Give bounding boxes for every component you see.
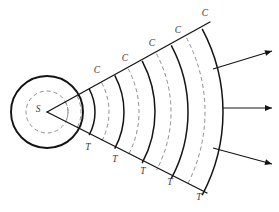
- crest-label-4: C: [175, 25, 182, 35]
- propagation-arrow-middle-head: [265, 105, 272, 111]
- wavefront-crest-2: [115, 76, 124, 148]
- wavefront-crest-4: [172, 46, 189, 178]
- trough-label-1: T: [85, 142, 91, 152]
- propagation-arrow-upper-head: [264, 50, 272, 56]
- crest-label-3: C: [149, 38, 156, 48]
- trough-label-group: TTTTT: [85, 142, 202, 202]
- trough-label-4: T: [167, 177, 173, 187]
- crest-label-2: C: [122, 53, 129, 63]
- wavefront-trough-5: [187, 38, 205, 186]
- wavefront-trough-4: [156, 54, 171, 170]
- sector-lower-ray: [47, 112, 207, 193]
- propagation-arrow-lower-shaft: [213, 148, 272, 164]
- propagation-arrow-lower: [213, 148, 272, 165]
- wavefront-diagram: S CCCCC TTTTT: [0, 0, 279, 212]
- source-label: S: [36, 104, 41, 114]
- sector-ray-group: [47, 22, 210, 193]
- crest-label-1: C: [94, 65, 101, 75]
- wavefront-inner-dashed: [66, 102, 68, 122]
- propagation-arrow-upper-shaft: [213, 51, 272, 69]
- wavefront-trough-2: [102, 83, 109, 141]
- wavefront-crest-1: [89, 89, 95, 134]
- wavefront-diagram-canvas: S CCCCC TTTTT: [0, 0, 279, 212]
- trough-label-3: T: [140, 166, 146, 176]
- trough-label-5: T: [196, 192, 202, 202]
- propagation-arrow-lower-head: [264, 159, 272, 165]
- crest-label-group: CCCCC: [94, 8, 209, 75]
- propagation-arrow-middle: [223, 105, 272, 111]
- wavefront-crest-3: [142, 61, 155, 162]
- propagation-arrow-upper: [213, 50, 272, 69]
- sector-upper-ray: [47, 22, 210, 112]
- propagation-arrow-group: [213, 50, 272, 165]
- crest-label-5: C: [202, 8, 209, 18]
- wavefront-trough-3: [128, 69, 139, 155]
- trough-label-2: T: [112, 154, 118, 164]
